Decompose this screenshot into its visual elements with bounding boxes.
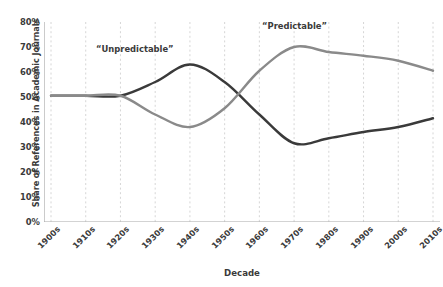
y-tick-label: 60% xyxy=(6,67,40,77)
x-tick-label: 2010s xyxy=(417,224,443,251)
x-tick-label: 1940s xyxy=(174,224,201,251)
y-tick-label: 80% xyxy=(6,17,40,27)
series-annotation-unpredictable: “Unpredictable” xyxy=(96,44,174,54)
x-tick-label: 1990s xyxy=(348,224,375,251)
series-annotation-predictable: “Predictable” xyxy=(262,21,327,31)
y-tick-label: 70% xyxy=(6,42,40,52)
x-axis-tick-labels: 1900s1910s1920s1930s1940s1950s1960s1970s… xyxy=(44,224,440,266)
x-tick-label: 1950s xyxy=(209,224,236,251)
y-tick-label: 0% xyxy=(6,217,40,227)
x-tick-label: 1980s xyxy=(313,224,340,251)
y-tick-label: 50% xyxy=(6,92,40,102)
x-axis-title: Decade xyxy=(44,268,440,278)
y-tick-label: 20% xyxy=(6,167,40,177)
x-tick-label: 1930s xyxy=(140,224,167,251)
y-tick-label: 10% xyxy=(6,192,40,202)
y-tick-label: 30% xyxy=(6,142,40,152)
x-tick-label: 1960s xyxy=(244,224,271,251)
series-line xyxy=(51,46,433,127)
y-tick-label: 40% xyxy=(6,117,40,127)
x-tick-label: 1920s xyxy=(105,224,132,251)
y-axis-tick-labels: 0%10%20%30%40%50%60%70%80% xyxy=(0,0,40,287)
x-tick-label: 2000s xyxy=(383,224,410,251)
x-tick-label: 1970s xyxy=(279,224,306,251)
x-tick-label: 1910s xyxy=(70,224,97,251)
chart-container: Share of References in Academic Journals… xyxy=(0,0,443,287)
series-line xyxy=(51,65,433,145)
